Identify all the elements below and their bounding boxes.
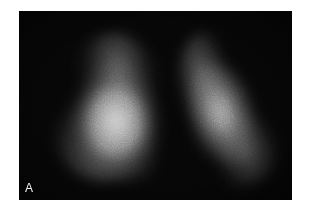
panel-label: A	[25, 182, 33, 194]
vignette	[19, 11, 292, 200]
scintigraphy-image: A	[19, 11, 292, 200]
